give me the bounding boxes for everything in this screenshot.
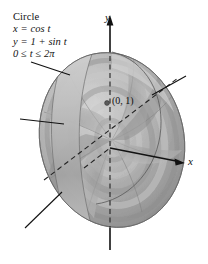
revolution-surface: [23, 39, 200, 241]
caption-block: Circle x = cos t y = 1 + sin t 0 ≤ t ≤ 2…: [13, 11, 67, 61]
caption-equation-x: x = cos t: [13, 23, 67, 35]
leader-line-lower-left: [25, 192, 62, 228]
caption-title: Circle: [13, 11, 67, 23]
axis-label-y: y: [105, 11, 110, 24]
caption-equation-y: y = 1 + sin t: [13, 36, 67, 48]
axis-label-x: x: [188, 155, 193, 168]
leader-line-caption: [31, 62, 70, 75]
point-marker-0-1: [105, 101, 110, 106]
point-label-0-1: (0, 1): [112, 95, 134, 107]
caption-domain: 0 ≤ t ≤ 2π: [13, 48, 67, 60]
figure-canvas: Circle x = cos t y = 1 + sin t 0 ≤ t ≤ 2…: [0, 0, 208, 264]
